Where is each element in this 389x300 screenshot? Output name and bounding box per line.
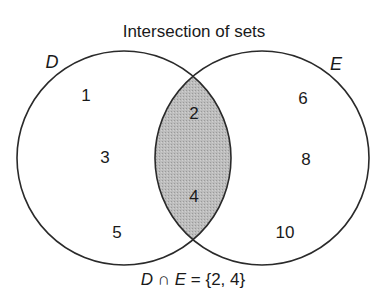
element-e-only: 10 [276,224,295,241]
element-d-only: 1 [81,87,90,104]
set-d-label: D [46,53,59,71]
formula-set-e: E [175,270,186,289]
venn-diagram [0,0,389,300]
intersection-formula: D ∩ E = {2, 4} [141,271,245,288]
intersection-region [155,51,369,265]
set-e-label: E [330,55,342,73]
element-e-only: 6 [298,90,307,107]
diagram-title: Intersection of sets [123,23,266,40]
element-d-only: 3 [100,149,109,166]
element-intersection: 2 [189,105,198,122]
element-e-only: 8 [301,151,310,168]
formula-result: = {2, 4} [191,270,245,289]
element-intersection: 4 [189,188,198,205]
formula-set-d: D [141,270,153,289]
intersection-symbol: ∩ [158,270,170,289]
element-d-only: 5 [112,224,121,241]
